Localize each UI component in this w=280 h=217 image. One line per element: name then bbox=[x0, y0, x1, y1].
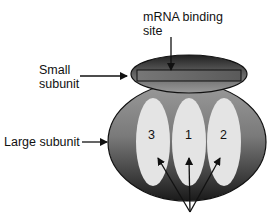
mrna-site-label-line1: mRNA binding bbox=[143, 10, 223, 24]
large-subunit-label: Large subunit bbox=[4, 135, 80, 149]
small-subunit-label: Small subunit bbox=[39, 63, 79, 91]
site-1-number: 1 bbox=[185, 128, 192, 142]
mrna-binding-bar bbox=[137, 70, 241, 81]
small-subunit-label-line1: Small bbox=[39, 63, 79, 77]
ribosome-diagram bbox=[0, 0, 280, 217]
site-2-number: 2 bbox=[220, 128, 227, 142]
site-3 bbox=[136, 98, 170, 186]
mrna-site-label: mRNA binding site bbox=[143, 10, 223, 38]
small-subunit-label-line2: subunit bbox=[39, 77, 79, 91]
site-3-number: 3 bbox=[148, 128, 155, 142]
mrna-site-label-line2: site bbox=[143, 24, 223, 38]
